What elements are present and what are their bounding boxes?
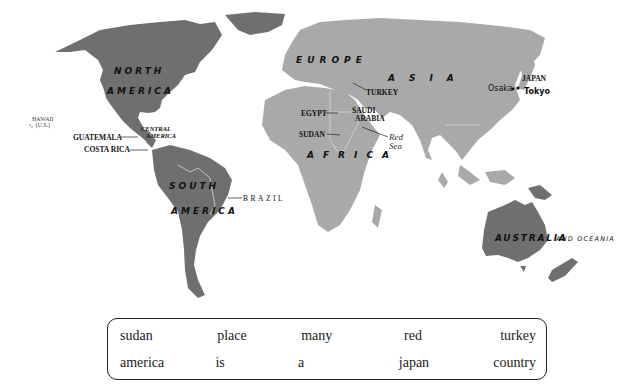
label-europe: EUROPE (296, 56, 367, 65)
label-tokyo: Tokyo (524, 88, 550, 96)
label-asia: ASIA (388, 74, 468, 83)
label-turkey: TURKEY (366, 89, 398, 97)
label-egypt: EGYPT (301, 110, 327, 118)
label-brazil: BRAZIL (243, 195, 285, 203)
label-south-america-2: AMERICA (171, 207, 238, 216)
word-a[interactable]: a (298, 355, 399, 371)
label-north-america-1: NORTH (114, 67, 164, 76)
word-sudan[interactable]: sudan (120, 328, 217, 344)
word-bank-row-2: america is a japan country (120, 355, 536, 371)
word-america[interactable]: america (120, 355, 215, 371)
central-america-1: CENTRAL (141, 125, 176, 132)
word-turkey[interactable]: turkey (500, 328, 536, 344)
label-hawaii: HAWAII (U.S.) (32, 116, 54, 128)
label-north-america-2: AMERICA (107, 87, 174, 96)
saudi-arabia-2: ARABIA (352, 115, 385, 123)
word-japan[interactable]: japan (399, 355, 493, 371)
word-red[interactable]: red (404, 328, 500, 344)
word-place[interactable]: place (217, 328, 301, 344)
label-africa: AFRICA (307, 151, 398, 160)
label-saudi-arabia: SAUDI ARABIA (352, 107, 385, 124)
label-sudan: SUDAN (299, 131, 325, 139)
label-oceania: AND OCEANIA (556, 236, 615, 243)
hawaii-sub: (U.S.) (32, 122, 54, 128)
word-many[interactable]: many (301, 328, 404, 344)
south-america-landmass (152, 145, 232, 298)
label-red-sea: Red Sea (389, 133, 403, 151)
label-costa-rica: COSTA RICA (84, 146, 130, 154)
central-america-2: AMERICA (141, 132, 176, 139)
label-guatemala: GUATEMALA (73, 134, 122, 142)
word-country[interactable]: country (493, 355, 536, 371)
word-bank: sudan place many red turkey america is a… (107, 318, 547, 380)
label-osaka: Osaka (488, 85, 513, 93)
word-bank-row-1: sudan place many red turkey (120, 328, 536, 344)
label-central-america: CENTRAL AMERICA (141, 125, 176, 139)
word-is[interactable]: is (215, 355, 298, 371)
label-south-america-1: SOUTH (169, 182, 219, 191)
tokyo-marker (516, 86, 519, 89)
label-japan: JAPAN (522, 75, 546, 83)
